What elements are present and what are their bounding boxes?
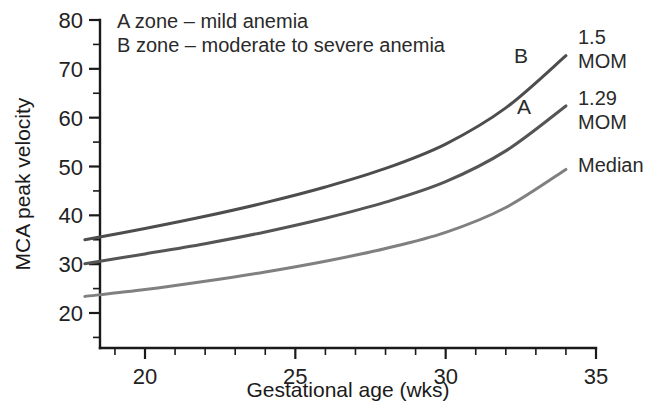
series-label-median: Median bbox=[578, 154, 644, 176]
y-axis-tick-labels: 20304050607080 bbox=[59, 8, 83, 326]
y-tick-label-50: 50 bbox=[59, 155, 83, 180]
mca-peak-velocity-chart: 20304050607080 20253035 MCA peak velocit… bbox=[0, 0, 647, 405]
series-label-1-29-mom-line1: 1.29 bbox=[578, 87, 617, 109]
y-axis-title: MCA peak velocity bbox=[11, 97, 34, 270]
x-tick-label-20: 20 bbox=[133, 364, 157, 389]
annotation-b-zone: B zone – moderate to severe anemia bbox=[117, 34, 446, 56]
y-axis-major-ticks bbox=[89, 20, 100, 313]
y-tick-label-80: 80 bbox=[59, 8, 83, 33]
zone-marker-a: A bbox=[517, 95, 531, 118]
y-tick-label-70: 70 bbox=[59, 57, 83, 82]
chart-svg: 20304050607080 20253035 MCA peak velocit… bbox=[0, 0, 647, 405]
x-tick-label-35: 35 bbox=[584, 364, 608, 389]
x-axis-title: Gestational age (wks) bbox=[246, 378, 449, 401]
y-tick-label-20: 20 bbox=[59, 301, 83, 326]
zone-marker-b: B bbox=[514, 44, 528, 67]
series-label-1-5-mom-line2: MOM bbox=[578, 50, 627, 72]
y-tick-label-60: 60 bbox=[59, 106, 83, 131]
y-tick-label-30: 30 bbox=[59, 252, 83, 277]
chart-series-group bbox=[85, 56, 566, 297]
series-curve-1-29-mom bbox=[85, 106, 566, 264]
x-axis-major-ticks bbox=[145, 348, 596, 359]
series-label-1-29-mom-line2: MOM bbox=[578, 111, 627, 133]
y-tick-label-40: 40 bbox=[59, 203, 83, 228]
series-label-1-5-mom-line1: 1.5 bbox=[578, 26, 606, 48]
annotation-a-zone: A zone – mild anemia bbox=[117, 10, 309, 32]
